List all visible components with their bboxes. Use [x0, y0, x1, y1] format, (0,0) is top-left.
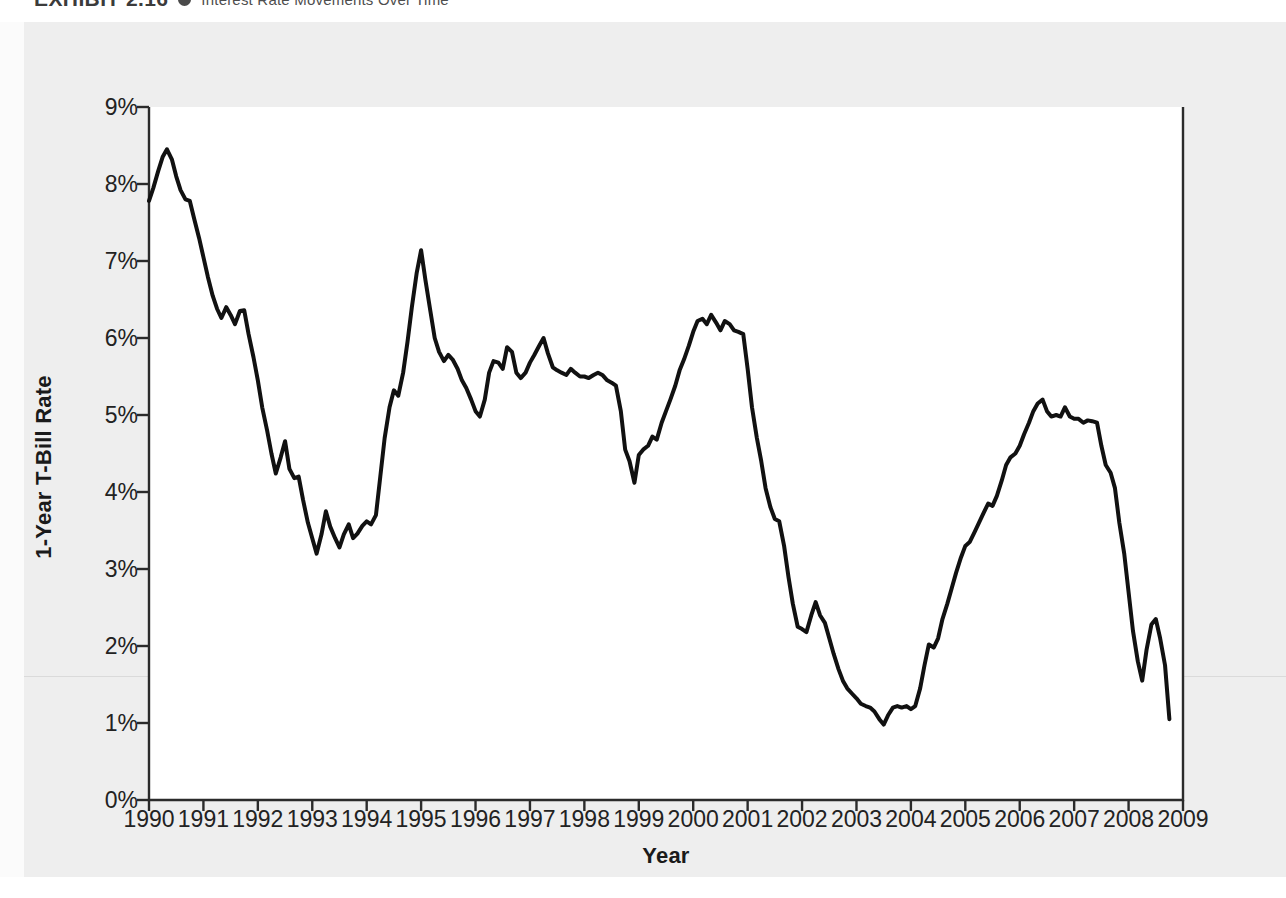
exhibit-title: Interest Rate Movements Over Time: [201, 0, 449, 8]
axis-tick-marks: [137, 107, 1183, 811]
y-tick-label-1%: 1%: [78, 710, 138, 737]
y-tick-label-3%: 3%: [78, 556, 138, 583]
exhibit-header: EXHIBIT 2.16 Interest Rate Movements Ove…: [34, 0, 449, 12]
y-axis-tick-labels: 9%8%7%6%5%4%3%2%1%0%: [74, 0, 138, 898]
data-series-line: [149, 149, 1169, 724]
x-tick-label-2009: 2009: [1143, 806, 1223, 833]
chart-page: EXHIBIT 2.16 Interest Rate Movements Ove…: [0, 0, 1286, 898]
x-axis-title: Year: [149, 843, 1183, 869]
y-axis-title: 1-Year T-Bill Rate: [31, 317, 57, 617]
y-tick-label-7%: 7%: [78, 248, 138, 275]
y-tick-label-9%: 9%: [78, 94, 138, 121]
bullet-dot-icon: [178, 0, 191, 6]
chart-canvas: [0, 0, 1286, 898]
y-tick-label-5%: 5%: [78, 402, 138, 429]
y-tick-label-4%: 4%: [78, 479, 138, 506]
y-tick-label-2%: 2%: [78, 633, 138, 660]
y-tick-label-6%: 6%: [78, 325, 138, 352]
y-tick-label-8%: 8%: [78, 171, 138, 198]
exhibit-label: EXHIBIT 2.16: [34, 0, 168, 11]
axis-lines: [149, 107, 1183, 800]
